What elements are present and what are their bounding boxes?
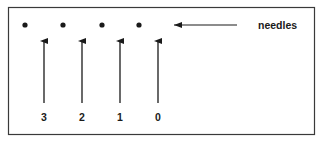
needle-label: 3 bbox=[41, 111, 47, 123]
needle-label: 2 bbox=[79, 111, 85, 123]
needles-diagram: needles 3 2 1 0 bbox=[0, 0, 322, 142]
needle-dot bbox=[22, 22, 27, 27]
needle-label: 1 bbox=[117, 111, 123, 123]
needle-dot bbox=[60, 22, 65, 27]
needle-dot bbox=[99, 22, 104, 27]
needle-label: 0 bbox=[155, 111, 161, 123]
callout-label: needles bbox=[258, 19, 297, 31]
needle-dot bbox=[136, 22, 141, 27]
